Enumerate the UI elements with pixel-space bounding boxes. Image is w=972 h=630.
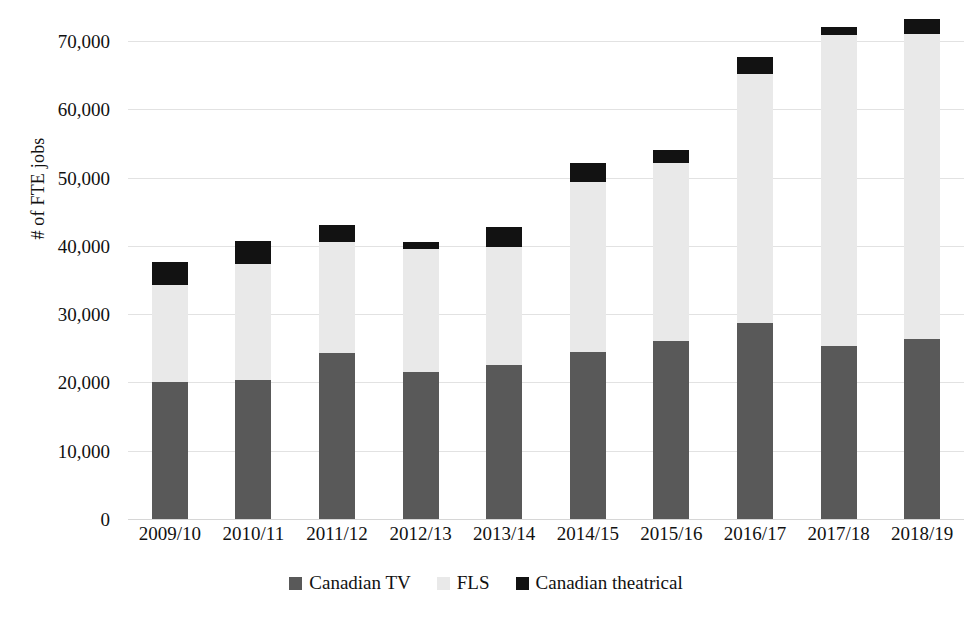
x-axis-tick-label: 2018/19 (862, 524, 972, 543)
bar-group[interactable] (570, 41, 606, 519)
chart-legend: Canadian TVFLSCanadian theatrical (0, 572, 972, 594)
legend-item[interactable]: Canadian theatrical (516, 572, 683, 594)
bar-group[interactable] (235, 41, 271, 519)
bar-segment-fls[interactable] (821, 35, 857, 346)
bar-segment-fls[interactable] (486, 247, 522, 365)
y-axis-tick-label: 60,000 (14, 100, 110, 119)
bar-segment-canadian-theatrical[interactable] (737, 57, 773, 74)
y-axis-tick-label: 0 (14, 510, 110, 529)
y-axis-tick-label: 30,000 (14, 305, 110, 324)
legend-item[interactable]: Canadian TV (289, 572, 411, 594)
bar-segment-canadian-tv[interactable] (235, 380, 271, 519)
bar-segment-fls[interactable] (235, 264, 271, 379)
bar-segment-canadian-theatrical[interactable] (821, 27, 857, 35)
legend-swatch-icon (289, 577, 302, 590)
bar-group[interactable] (486, 41, 522, 519)
bar-group[interactable] (821, 41, 857, 519)
bar-segment-canadian-theatrical[interactable] (570, 163, 606, 182)
bar-group[interactable] (737, 41, 773, 519)
bar-segment-fls[interactable] (904, 34, 940, 340)
bar-segment-canadian-tv[interactable] (653, 341, 689, 519)
legend-label: Canadian TV (309, 572, 411, 594)
gridline (128, 519, 964, 520)
bar-group[interactable] (904, 41, 940, 519)
bar-segment-canadian-theatrical[interactable] (486, 227, 522, 246)
legend-label: FLS (457, 572, 490, 594)
plot-area (128, 41, 964, 519)
bar-group[interactable] (403, 41, 439, 519)
bar-segment-canadian-tv[interactable] (403, 372, 439, 519)
bar-segment-fls[interactable] (737, 74, 773, 323)
legend-swatch-icon (516, 577, 529, 590)
legend-label: Canadian theatrical (536, 572, 683, 594)
y-axis-tick-label: 10,000 (14, 441, 110, 460)
bar-segment-canadian-tv[interactable] (486, 365, 522, 519)
bar-segment-fls[interactable] (570, 182, 606, 353)
legend-item[interactable]: FLS (437, 572, 490, 594)
legend-swatch-icon (437, 577, 450, 590)
bar-segment-fls[interactable] (403, 249, 439, 373)
bar-segment-canadian-tv[interactable] (152, 382, 188, 519)
bar-segment-canadian-theatrical[interactable] (904, 19, 940, 33)
bar-segment-canadian-tv[interactable] (821, 346, 857, 519)
bar-segment-fls[interactable] (152, 285, 188, 383)
y-axis-tick-label: 70,000 (14, 32, 110, 51)
bar-segment-fls[interactable] (319, 242, 355, 353)
bar-group[interactable] (653, 41, 689, 519)
y-axis-tick-label: 50,000 (14, 168, 110, 187)
bar-segment-canadian-tv[interactable] (737, 323, 773, 519)
bar-segment-fls[interactable] (653, 163, 689, 342)
bar-segment-canadian-theatrical[interactable] (152, 262, 188, 285)
bar-group[interactable] (152, 41, 188, 519)
bar-segment-canadian-tv[interactable] (570, 352, 606, 519)
stacked-bar-chart: # of FTE jobs 010,00020,00030,00040,0005… (0, 0, 972, 630)
bar-segment-canadian-theatrical[interactable] (235, 241, 271, 264)
bar-segment-canadian-tv[interactable] (904, 339, 940, 519)
y-axis-tick-label: 20,000 (14, 373, 110, 392)
bar-group[interactable] (319, 41, 355, 519)
y-axis-tick-label: 40,000 (14, 236, 110, 255)
bar-segment-canadian-theatrical[interactable] (319, 225, 355, 242)
bar-segment-canadian-theatrical[interactable] (403, 242, 439, 249)
bar-segment-canadian-tv[interactable] (319, 353, 355, 519)
bar-segment-canadian-theatrical[interactable] (653, 150, 689, 163)
